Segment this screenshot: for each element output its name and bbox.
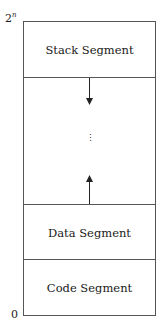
memory-layout-box: Stack Segment ⋮ Data Segment Code Segmen… <box>23 21 156 316</box>
data-segment-label: Data Segment <box>48 226 131 240</box>
gap-ellipsis-icon: ⋮ <box>85 136 95 141</box>
stack-segment-label: Stack Segment <box>45 43 133 57</box>
data-segment: Data Segment <box>24 205 155 260</box>
top-address-label: 2n <box>5 12 17 24</box>
top-address-exponent: n <box>12 11 17 19</box>
bottom-address-label: 0 <box>11 309 18 320</box>
arrow-down-icon <box>86 98 93 105</box>
code-segment: Code Segment <box>24 260 155 315</box>
stack-growth-arrow-line <box>89 78 90 100</box>
top-address-base: 2 <box>5 12 12 25</box>
data-growth-arrow-line <box>89 181 90 205</box>
gap-ellipsis-text: ⋮ <box>86 133 95 143</box>
code-segment-label: Code Segment <box>47 281 132 295</box>
stack-segment: Stack Segment <box>24 22 155 78</box>
